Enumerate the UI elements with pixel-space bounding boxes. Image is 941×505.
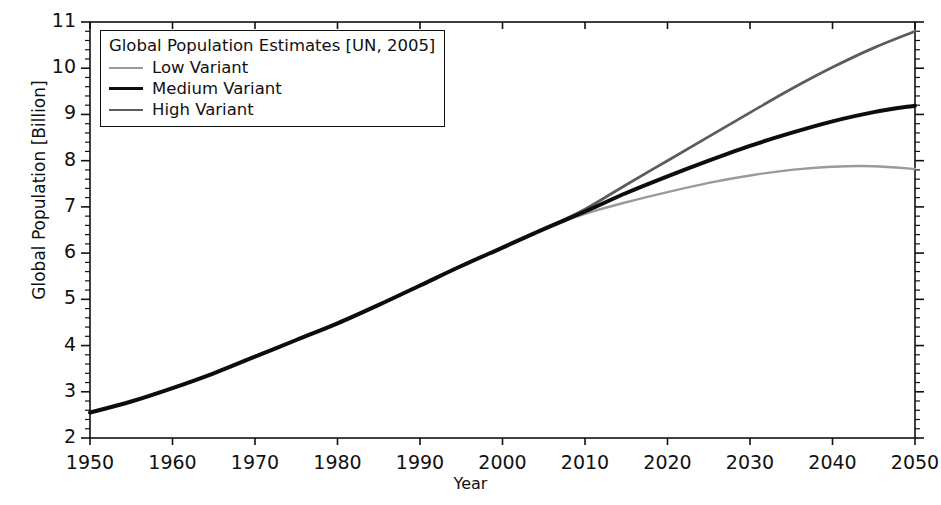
y-tick-label: 4 [36, 333, 76, 355]
legend-swatch-high-variant [109, 109, 143, 111]
x-tick-label: 2000 [458, 451, 548, 473]
y-tick-label: 8 [36, 148, 76, 170]
x-tick-label: 1960 [128, 451, 218, 473]
y-tick-label: 5 [36, 286, 76, 308]
legend-swatch-low-variant [109, 67, 143, 69]
legend-item-medium-variant: Medium Variant [109, 78, 436, 99]
legend-item-high-variant: High Variant [109, 99, 436, 120]
legend-label-high-variant: High Variant [152, 99, 254, 120]
x-tick-label: 1970 [210, 451, 300, 473]
y-tick-label: 6 [36, 240, 76, 262]
x-tick-label: 2030 [705, 451, 795, 473]
series-line-low-variant [90, 166, 915, 413]
x-tick-label: 2040 [788, 451, 878, 473]
y-tick-label: 10 [36, 55, 76, 77]
x-tick-label: 1980 [293, 451, 383, 473]
legend-label-low-variant: Low Variant [152, 57, 248, 78]
y-tick-label: 2 [36, 425, 76, 447]
x-tick-label: 1990 [375, 451, 465, 473]
legend-title: Global Population Estimates [UN, 2005] [109, 35, 436, 57]
y-tick-label: 11 [36, 9, 76, 31]
legend-label-medium-variant: Medium Variant [152, 78, 282, 99]
legend-item-low-variant: Low Variant [109, 57, 436, 78]
y-tick-label: 9 [36, 101, 76, 123]
legend: Global Population Estimates [UN, 2005] L… [100, 30, 445, 127]
x-axis-label: Year [0, 474, 941, 493]
x-tick-label: 1950 [45, 451, 135, 473]
chart-figure: Global Population [Billion] Year Global … [0, 0, 941, 505]
y-tick-label: 3 [36, 379, 76, 401]
series-line-medium-variant [90, 106, 915, 413]
x-tick-label: 2010 [540, 451, 630, 473]
y-tick-label: 7 [36, 194, 76, 216]
legend-swatch-medium-variant [109, 87, 143, 90]
x-tick-label: 2020 [623, 451, 713, 473]
x-tick-label: 2050 [870, 451, 941, 473]
